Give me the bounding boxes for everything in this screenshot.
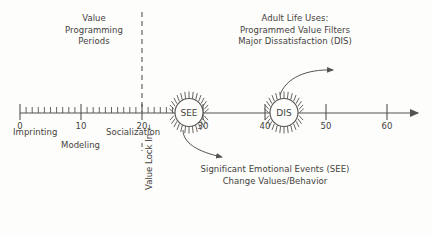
see-callout-arrow (183, 130, 222, 157)
axis-tick-label-60: 60 (375, 121, 399, 131)
see-description-note: Significant Emotional Events (SEE) Chang… (175, 164, 375, 187)
stage-label-modeling: Modeling (61, 140, 100, 152)
see-label: SEE (180, 108, 197, 118)
axis-tick-label-20: 20 (130, 121, 154, 131)
axis-tick-label-30: 30 (191, 121, 215, 131)
axis-tick-label-50: 50 (314, 121, 338, 131)
dis-callout-arrow (280, 70, 333, 95)
value-programming-diagram: SEE (0, 0, 431, 236)
dis-label: DIS (276, 108, 292, 118)
adult-life-uses-title: Adult Life Uses: Programmed Value Filter… (200, 13, 390, 48)
axis-tick-label-40: 40 (253, 121, 277, 131)
axis-minor-ticks (26, 107, 179, 113)
value-programming-title: Value Programming Periods (50, 13, 138, 48)
value-lock-in-label: Value Lock In ← (144, 130, 154, 190)
axis-tick-label-0: 0 (8, 121, 32, 131)
axis-tick-label-10: 10 (69, 121, 93, 131)
